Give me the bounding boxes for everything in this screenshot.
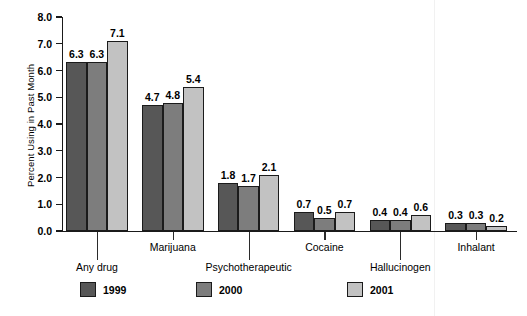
bar-value-label: 7.1: [103, 28, 132, 39]
category-leader-tick: [249, 232, 250, 260]
bar-value-label: 2.1: [255, 162, 284, 173]
legend-label: 2001: [370, 285, 393, 296]
x-axis-category-label: Hallucinogen: [340, 262, 460, 273]
bar: [486, 226, 507, 231]
bar-value-label: 0.7: [331, 199, 360, 210]
bar: [66, 62, 87, 231]
legend-swatch: [196, 282, 212, 297]
y-axis-tick-label: 5.0: [22, 92, 52, 103]
y-axis-tick-label: 2.0: [22, 173, 52, 184]
bar: [163, 103, 184, 231]
legend-swatch: [347, 282, 363, 297]
bar-value-label: 0.6: [407, 202, 436, 213]
x-axis-category-label: Inhalant: [416, 242, 527, 253]
bar: [445, 223, 466, 231]
x-axis-category-label: Psychotherapeutic: [189, 262, 309, 273]
legend-swatch: [80, 282, 96, 297]
plot-area: 6.36.37.14.74.85.41.81.72.10.70.50.70.40…: [62, 17, 517, 231]
legend-label: 2000: [219, 285, 242, 296]
bar-chart: Percent Using in Past Month 0.01.02.03.0…: [0, 0, 527, 316]
bar: [335, 212, 356, 231]
bar: [411, 215, 432, 231]
bar: [370, 220, 391, 231]
y-axis-tick-label: 6.0: [22, 66, 52, 77]
category-leader-tick: [476, 232, 477, 240]
bar-value-label: 5.4: [179, 74, 208, 85]
bar: [259, 175, 280, 231]
bar: [107, 41, 128, 231]
x-axis-category-label: Cocaine: [264, 242, 384, 253]
y-axis-tick-label: 0.0: [22, 226, 52, 237]
bar: [218, 183, 239, 231]
chart-legend: 199920002001: [0, 282, 527, 304]
bar: [183, 87, 204, 231]
category-leader-tick: [400, 232, 401, 260]
bar: [142, 105, 163, 231]
bar: [314, 218, 335, 231]
bar: [238, 186, 259, 231]
y-axis-tick-label: 3.0: [22, 146, 52, 157]
y-axis-tick-label: 4.0: [22, 119, 52, 130]
bar: [466, 223, 487, 231]
y-axis-tick-label: 8.0: [22, 12, 52, 23]
x-axis-category-label: Marijuana: [113, 242, 233, 253]
category-leader-tick: [97, 232, 98, 260]
category-leader-tick: [324, 232, 325, 240]
bar: [87, 62, 108, 231]
y-axis-tick-label: 7.0: [22, 39, 52, 50]
x-axis-category-label: Any drug: [37, 262, 157, 273]
y-axis-tick-label: 1.0: [22, 199, 52, 210]
bar-value-label: 0.2: [482, 213, 511, 224]
category-leader-tick: [173, 232, 174, 240]
legend-label: 1999: [103, 285, 126, 296]
bar: [390, 220, 411, 231]
